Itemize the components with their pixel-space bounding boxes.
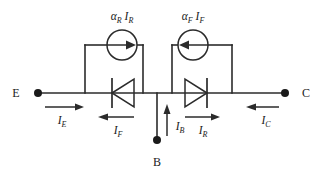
current-arrow-if: IF (98, 114, 134, 140)
if-label: IF (113, 124, 123, 139)
circuit-diagram: E C B αR IR αF IF IE IF (0, 0, 323, 174)
ie-subscript: E (60, 120, 66, 129)
right-source-branch (172, 30, 232, 93)
ir-arrow-head (211, 114, 220, 121)
emitter-terminal-label: E (12, 86, 19, 100)
base-terminal-label: B (153, 155, 161, 169)
current-arrow-ib: IB (164, 104, 185, 136)
left-source-current-sub: R (127, 16, 133, 25)
collector-terminal-label: C (302, 86, 310, 100)
if-arrow-head (98, 114, 108, 121)
right-source-label: αF IF (182, 10, 205, 25)
ir-label: IR (198, 124, 208, 139)
base-terminal-dot (153, 136, 161, 144)
ic-label: IC (260, 114, 271, 129)
emitter-terminal-dot (34, 89, 42, 97)
ie-label: IE (57, 114, 67, 129)
ib-subscript: B (179, 126, 184, 135)
ib-label: IB (175, 120, 185, 135)
left-source-label: αR IR (111, 10, 134, 25)
ir-subscript: R (201, 130, 207, 139)
ic-subscript: C (265, 120, 271, 129)
base-lead (153, 93, 161, 144)
if-subscript: F (116, 130, 122, 139)
collector-terminal-dot (281, 89, 289, 97)
right-source-current-sub: F (198, 16, 204, 25)
ib-arrow-head (164, 104, 171, 114)
current-arrow-ir: IR (185, 114, 220, 140)
current-arrow-ie: IE (45, 104, 84, 130)
current-arrow-ic: IC (246, 104, 279, 130)
circuit-schematic-svg: E C B αR IR αF IF IE IF (0, 0, 323, 174)
ie-arrow-head (75, 104, 84, 111)
ic-arrow-head (246, 104, 256, 111)
